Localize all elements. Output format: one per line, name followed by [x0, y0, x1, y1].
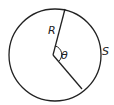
arc-label: S — [102, 45, 109, 58]
sector-diagram: R θ S — [0, 0, 114, 105]
radius-label: R — [48, 24, 56, 37]
circle-outline — [9, 9, 101, 101]
angle-label: θ — [61, 49, 68, 62]
